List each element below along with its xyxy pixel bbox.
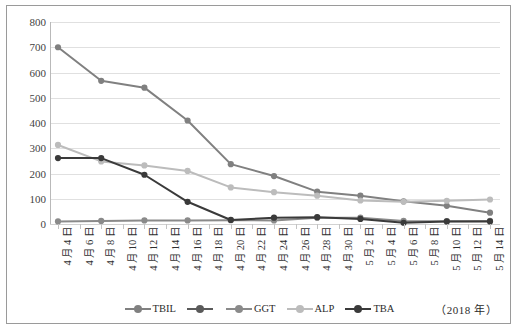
x-tick-label: 5 月 6 日 — [409, 227, 420, 289]
y-tick-label: 800 — [4, 17, 46, 28]
x-tick-mark — [360, 224, 361, 229]
gridline — [50, 47, 500, 48]
x-tick-mark — [231, 224, 232, 229]
x-tick-label: 5 月 12 日 — [473, 227, 484, 289]
legend-item-TBIL[interactable]: TBIL — [125, 304, 176, 315]
legend-label: TBA — [373, 304, 394, 315]
y-tick-label: 500 — [4, 92, 46, 103]
y-tick-label: 400 — [4, 118, 46, 129]
y-tick-label: 300 — [4, 143, 46, 154]
x-tick-mark — [317, 224, 318, 229]
legend-marker-icon — [125, 304, 151, 314]
gridline — [50, 224, 500, 225]
y-tick-label: 700 — [4, 42, 46, 53]
x-tick-label: 4 月 26 日 — [301, 227, 312, 289]
gridline — [50, 199, 500, 200]
gridline — [50, 123, 500, 124]
x-tick-mark — [296, 224, 297, 229]
x-tick-mark — [274, 224, 275, 229]
gridline — [50, 174, 500, 175]
gridline — [50, 98, 500, 99]
x-tick-mark — [166, 224, 167, 229]
legend-item-TBA[interactable]: TBA — [345, 304, 394, 315]
x-tick-mark — [123, 224, 124, 229]
y-axis-labels: 8007006005004003002001000 — [0, 22, 46, 224]
legend-label: ALP — [315, 304, 335, 315]
y-tick-label: 200 — [4, 168, 46, 179]
x-tick-mark — [209, 224, 210, 229]
x-tick-label: 4 月 8 日 — [106, 227, 117, 289]
x-tick-label: 5 月 8 日 — [430, 227, 441, 289]
x-tick-label: 4 月 4 日 — [63, 227, 74, 289]
x-tick-label: 4 月 10 日 — [128, 227, 139, 289]
x-tick-label: 4 月 20 日 — [236, 227, 247, 289]
legend-label: TBIL — [153, 304, 176, 315]
legend-item-ALP[interactable]: ALP — [287, 304, 335, 315]
legend-marker-icon — [287, 304, 313, 314]
x-tick-mark — [382, 224, 383, 229]
x-tick-label: 4 月 6 日 — [85, 227, 96, 289]
legend-item-unnamed-1[interactable] — [187, 304, 215, 314]
x-tick-label: 4 月 12 日 — [149, 227, 160, 289]
x-tick-mark — [144, 224, 145, 229]
x-axis-labels: 4 月 4 日4 月 6 日4 月 8 日4 月 10 日4 月 12 日4 月… — [50, 229, 500, 291]
legend-marker-icon — [345, 304, 371, 314]
legend-label: GGT — [254, 304, 276, 315]
x-tick-mark — [101, 224, 102, 229]
x-tick-mark — [425, 224, 426, 229]
line-chart-figure: 8007006005004003002001000 4 月 4 日4 月 6 日… — [0, 0, 519, 332]
y-tick-label: 100 — [4, 193, 46, 204]
x-tick-label: 5 月 4 日 — [387, 227, 398, 289]
x-tick-mark — [252, 224, 253, 229]
gridline — [50, 148, 500, 149]
y-tick-label: 0 — [4, 219, 46, 230]
legend-item-GGT[interactable]: GGT — [226, 304, 276, 315]
x-tick-mark — [80, 224, 81, 229]
gridline — [50, 22, 500, 23]
x-tick-label: 5 月 2 日 — [365, 227, 376, 289]
legend-marker-icon — [187, 304, 213, 314]
x-tick-label: 4 月 30 日 — [344, 227, 355, 289]
y-tick-label: 600 — [4, 67, 46, 78]
x-tick-label: 4 月 18 日 — [214, 227, 225, 289]
x-tick-label: 4 月 24 日 — [279, 227, 290, 289]
x-tick-label: 4 月 22 日 — [257, 227, 268, 289]
legend-marker-icon — [226, 304, 252, 314]
x-tick-label: 4 月 16 日 — [193, 227, 204, 289]
x-tick-mark — [404, 224, 405, 229]
x-tick-mark — [339, 224, 340, 229]
x-tick-label: 5 月 10 日 — [452, 227, 463, 289]
gridline — [50, 73, 500, 74]
x-tick-label: 5 月 14 日 — [495, 227, 506, 289]
x-tick-mark — [447, 224, 448, 229]
year-annotation: （2018 年） — [435, 301, 497, 317]
x-tick-mark — [468, 224, 469, 229]
plot-area — [50, 22, 500, 224]
x-tick-label: 4 月 28 日 — [322, 227, 333, 289]
x-tick-mark — [58, 224, 59, 229]
x-tick-mark — [188, 224, 189, 229]
y-axis-line — [50, 22, 51, 224]
x-tick-mark — [490, 224, 491, 229]
x-tick-label: 4 月 14 日 — [171, 227, 182, 289]
